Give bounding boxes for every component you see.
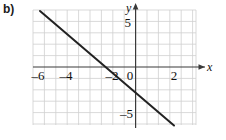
origin-label: 0 <box>127 68 134 83</box>
y-axis-arrow-icon <box>133 3 139 10</box>
y-tick-label--5: –5 <box>119 106 133 121</box>
coordinate-graph: x y –6 –4 –2 2 0 5 –5 <box>0 0 226 140</box>
figure-container: b) <box>0 0 226 140</box>
x-tick-label--2: –2 <box>105 68 119 83</box>
x-tick-label--6: –6 <box>31 68 46 83</box>
y-tick-label-5: 5 <box>125 15 132 30</box>
x-axis-arrow-icon <box>199 64 206 70</box>
x-tick-label-2: 2 <box>171 68 178 83</box>
x-axis-label: x <box>206 60 213 74</box>
x-tick-label--4: –4 <box>59 68 74 83</box>
y-axis-label: y <box>125 1 132 15</box>
